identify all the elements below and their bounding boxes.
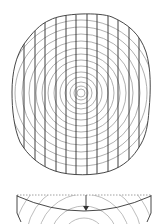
- down-arrow-icon: [83, 195, 89, 211]
- section-hatch-arcs: [14, 170, 154, 224]
- concave-arc: [17, 196, 151, 211]
- section-view: [14, 170, 154, 224]
- concentric-rings: [8, 20, 154, 166]
- diagram-canvas: [0, 0, 161, 224]
- plan-view: [8, 0, 154, 180]
- section-left-edge: [17, 195, 21, 222]
- section-right-edge: [147, 195, 151, 222]
